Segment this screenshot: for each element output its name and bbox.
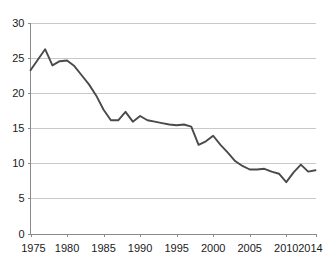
x-tick-label-1980: 1980 (55, 242, 79, 254)
y-tick-label-15: 15 (12, 122, 24, 134)
y-axis (28, 23, 31, 235)
x-tick-label-2005: 2005 (237, 242, 261, 254)
x-tick-label-1995: 1995 (164, 242, 188, 254)
y-tick-label-5: 5 (18, 192, 24, 204)
y-tick-label-10: 10 (12, 157, 24, 169)
x-tick-label-1975: 1975 (21, 242, 45, 254)
x-axis (31, 234, 317, 237)
data-series (31, 49, 316, 182)
series-line-rate (31, 49, 316, 182)
x-tick-label-2000: 2000 (201, 242, 225, 254)
line-chart: 051015202530 197519801985199019952000200… (0, 0, 329, 261)
x-tick-label-1985: 1985 (91, 242, 115, 254)
x-tick-label-2014: 2014 (298, 242, 322, 254)
x-tick-label-2010: 2010 (274, 242, 298, 254)
y-tick-label-0: 0 (18, 228, 24, 240)
y-tick-label-20: 20 (12, 87, 24, 99)
y-tick-labels: 051015202530 (12, 17, 24, 240)
x-tick-label-1990: 1990 (128, 242, 152, 254)
y-tick-label-25: 25 (12, 52, 24, 64)
y-tick-label-30: 30 (12, 17, 24, 29)
x-tick-labels: 197519801985199019952000200520102014 (21, 242, 322, 254)
chart-canvas: 051015202530 197519801985199019952000200… (0, 0, 329, 261)
